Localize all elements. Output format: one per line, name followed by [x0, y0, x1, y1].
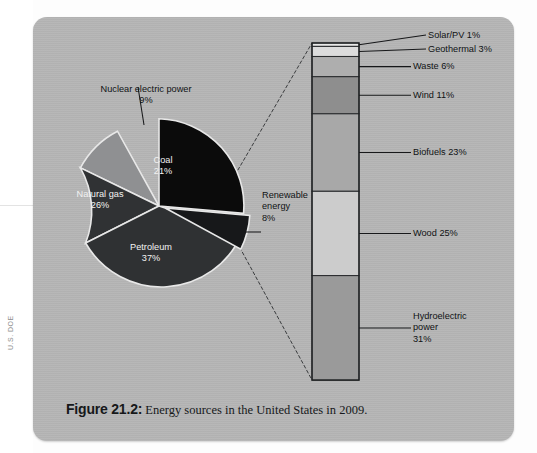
- pie-label-nuclear-value: 9%: [139, 95, 152, 105]
- pie-label-coal-name: Coal: [154, 155, 173, 165]
- bar-label-hydro-value: 31%: [413, 334, 431, 344]
- bar-label-geothermal: Geothermal 3%: [428, 44, 492, 55]
- bar-segment-waste: [312, 57, 359, 77]
- pie-label-natural-gas-value: 26%: [91, 200, 109, 210]
- pie-label-petroleum: Petroleum 37%: [113, 242, 189, 265]
- bar-label-hydro-l1: Hydroelectric: [413, 311, 467, 321]
- bar-segment-biofuels: [312, 114, 359, 192]
- leader-geothermal: [359, 49, 426, 51]
- page-left-margin: [0, 0, 33, 453]
- figure-container: U.S. DOE: [0, 0, 537, 453]
- bar-segment-wind: [312, 77, 359, 114]
- bar-label-solar: Solar/PV 1%: [428, 30, 480, 41]
- figure-caption-text: Energy sources in the United States in 2…: [142, 403, 367, 417]
- bar-label-biofuels: Biofuels 23%: [413, 147, 467, 158]
- leader-solar: [359, 35, 426, 45]
- margin-rule: [0, 205, 33, 206]
- figure-caption: Figure 21.2: Energy sources in the Unite…: [66, 401, 486, 418]
- pie-label-petroleum-value: 37%: [142, 253, 160, 263]
- pie-label-renewable-value: 8%: [262, 213, 275, 223]
- pie-label-coal-value: 21%: [154, 166, 172, 176]
- pie-label-nuclear-name: Nuclear electric power: [101, 84, 192, 94]
- bar-segment-hydroelectric: [312, 276, 359, 381]
- pie-label-coal: Coal 21%: [139, 155, 187, 178]
- figure-number: Figure 21.2:: [66, 401, 142, 417]
- bar-label-wood: Wood 25%: [413, 228, 458, 239]
- pie-label-petroleum-name: Petroleum: [130, 242, 172, 252]
- bar-label-waste: Waste 6%: [413, 61, 455, 72]
- bar-label-hydroelectric: Hydroelectric power 31%: [413, 311, 467, 345]
- image-credit: U.S. DOE: [7, 315, 14, 350]
- bar-leader-lines: [359, 35, 426, 328]
- pie-label-renewable: Renewable energy 8%: [262, 190, 342, 224]
- bar-label-wind: Wind 11%: [413, 90, 454, 101]
- pie-label-natural-gas: Natural gas 26%: [62, 189, 138, 212]
- pie-label-nuclear: Nuclear electric power 9%: [66, 84, 226, 107]
- pie-label-natural-gas-name: Natural gas: [77, 189, 124, 199]
- bar-segment-geothermal: [312, 46, 359, 56]
- bar-label-hydro-l2: power: [413, 322, 438, 332]
- pie-label-renewable-l1: Renewable: [262, 190, 308, 200]
- pie-label-renewable-l2: energy: [262, 201, 290, 211]
